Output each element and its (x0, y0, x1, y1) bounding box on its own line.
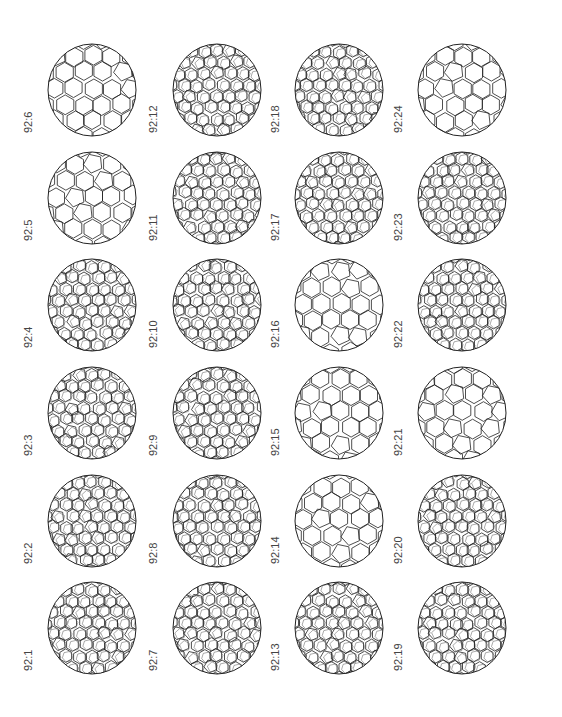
cage-cell-92-1: 92:1 (0, 580, 130, 685)
isomer-label: 92:7 (147, 650, 159, 671)
isomer-label: 92:24 (392, 105, 404, 133)
cage-cell-92-19: 92:19 (370, 580, 500, 685)
isomer-label: 92:17 (269, 213, 281, 241)
isomer-label: 92:4 (22, 327, 34, 348)
cage-cell-92-6: 92:6 (0, 42, 130, 147)
cage-cell-92-9: 92:9 (125, 365, 255, 470)
cage-cell-92-24: 92:24 (370, 42, 500, 147)
isomer-label: 92:10 (147, 320, 159, 348)
cage-cell-92-10: 92:10 (125, 257, 255, 362)
cage-cell-92-18: 92:18 (247, 42, 377, 147)
cage-cell-92-14: 92:14 (247, 473, 377, 578)
isomer-label: 92:15 (269, 428, 281, 456)
cage-cell-92-8: 92:8 (125, 473, 255, 578)
isomer-label: 92:1 (22, 650, 34, 671)
cage-cell-92-3: 92:3 (0, 365, 130, 470)
cage-cell-92-21: 92:21 (370, 365, 500, 470)
cage-cell-92-5: 92:5 (0, 150, 130, 255)
isomer-label: 92:18 (269, 105, 281, 133)
fullerene-isomer-grid: 92:692:592:492:392:292:192:1292:1192:109… (0, 0, 562, 717)
isomer-label: 92:23 (392, 213, 404, 241)
cage-cell-92-11: 92:11 (125, 150, 255, 255)
isomer-label: 92:3 (22, 435, 34, 456)
isomer-label: 92:11 (147, 214, 159, 241)
isomer-label: 92:8 (147, 543, 159, 564)
isomer-label: 92:6 (22, 112, 34, 133)
isomer-label: 92:12 (147, 105, 159, 133)
cage-cell-92-4: 92:4 (0, 257, 130, 362)
cage-cell-92-22: 92:22 (370, 257, 500, 362)
cage-cell-92-13: 92:13 (247, 580, 377, 685)
fullerene-cage-drawing (416, 473, 508, 569)
isomer-label: 92:19 (392, 643, 404, 671)
isomer-label: 92:13 (269, 643, 281, 671)
isomer-label: 92:20 (392, 536, 404, 564)
isomer-label: 92:2 (22, 543, 34, 564)
cage-cell-92-23: 92:23 (370, 150, 500, 255)
cage-cell-92-7: 92:7 (125, 580, 255, 685)
cage-cell-92-17: 92:17 (247, 150, 377, 255)
cage-cell-92-12: 92:12 (125, 42, 255, 147)
cage-cell-92-15: 92:15 (247, 365, 377, 470)
fullerene-cage-drawing (416, 150, 508, 246)
isomer-label: 92:5 (22, 220, 34, 241)
cage-cell-92-20: 92:20 (370, 473, 500, 578)
fullerene-cage-drawing (416, 42, 508, 138)
isomer-label: 92:9 (147, 435, 159, 456)
isomer-label: 92:14 (269, 536, 281, 564)
cage-cell-92-16: 92:16 (247, 257, 377, 362)
cage-cell-92-2: 92:2 (0, 473, 130, 578)
isomer-label: 92:21 (392, 428, 404, 456)
fullerene-cage-drawing (416, 257, 508, 353)
isomer-label: 92:22 (392, 320, 404, 348)
fullerene-cage-drawing (416, 580, 508, 676)
isomer-label: 92:16 (269, 320, 281, 348)
fullerene-cage-drawing (416, 365, 508, 461)
